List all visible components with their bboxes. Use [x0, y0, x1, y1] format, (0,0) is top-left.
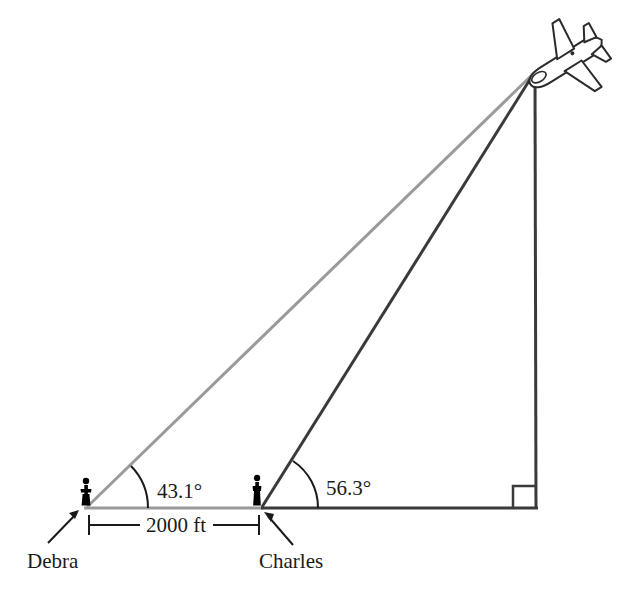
line-of-sight-charles — [262, 73, 534, 507]
person-icon-charles — [253, 475, 262, 506]
label-charles: Charles — [259, 549, 323, 573]
label-debra: Debra — [27, 549, 79, 573]
airplane-icon — [509, 6, 623, 118]
person-icon-debra — [81, 478, 92, 506]
geometry-figure: 43.1° 56.3° 2000 ft — [0, 0, 630, 600]
angle-label-debra: 43.1° — [157, 479, 202, 503]
arrow-pointer-icon-charles — [264, 512, 293, 545]
angle-arc-charles — [293, 461, 318, 508]
angle-label-charles: 56.3° — [326, 476, 371, 500]
right-angle-marker-icon — [513, 486, 536, 508]
line-of-sight-debra — [87, 74, 533, 507]
dimension-line-2000ft: 2000 ft — [89, 513, 259, 537]
altitude-line — [535, 72, 536, 509]
dimension-label: 2000 ft — [146, 513, 206, 537]
angle-arc-debra — [131, 466, 148, 508]
arrow-pointer-icon-debra — [48, 510, 79, 543]
diagram-canvas: 43.1° 56.3° 2000 ft — [0, 0, 630, 600]
